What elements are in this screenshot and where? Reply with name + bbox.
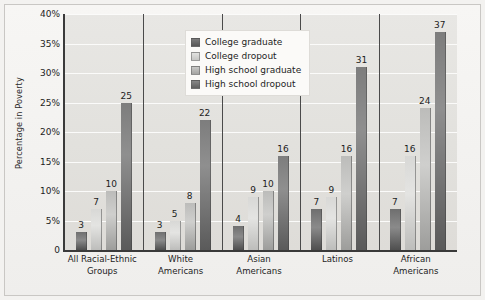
bar-value-label: 24 bbox=[419, 97, 430, 106]
chart-legend: College graduateCollege dropoutHigh scho… bbox=[185, 30, 310, 96]
bar-slot: 3 bbox=[76, 14, 87, 250]
bar[interactable]: 4 bbox=[233, 226, 244, 250]
legend-item[interactable]: College graduate bbox=[191, 35, 301, 49]
bar[interactable]: 16 bbox=[405, 156, 416, 250]
bar[interactable]: 8 bbox=[185, 203, 196, 250]
y-axis-tick: 30% bbox=[22, 68, 60, 78]
bar[interactable]: 25 bbox=[121, 103, 132, 251]
bar[interactable]: 37 bbox=[435, 32, 446, 250]
y-axis-tick: 5% bbox=[22, 216, 60, 226]
legend-label: High school graduate bbox=[205, 65, 301, 75]
y-axis-tick: 35% bbox=[22, 39, 60, 49]
x-axis-label-line: Americans bbox=[379, 266, 453, 278]
bar-value-label: 16 bbox=[341, 145, 352, 154]
bar-slot: 7 bbox=[311, 14, 322, 250]
bar[interactable]: 31 bbox=[356, 67, 367, 250]
legend-item[interactable]: High school graduate bbox=[191, 63, 301, 77]
y-axis-tick-labels: 40%35%30%25%20%15%10%5%0 bbox=[22, 14, 60, 250]
legend-swatch-icon bbox=[191, 80, 200, 89]
bar-value-label: 9 bbox=[329, 186, 335, 195]
bar-slot: 24 bbox=[420, 14, 431, 250]
bar-value-label: 5 bbox=[172, 210, 178, 219]
bar[interactable]: 16 bbox=[278, 156, 289, 250]
x-axis-label-line: Latinos bbox=[300, 254, 374, 266]
bar-group-bars: 791631 bbox=[300, 14, 378, 250]
bar-value-label: 10 bbox=[262, 180, 273, 189]
y-axis-tick: 10% bbox=[22, 186, 60, 196]
bar-slot: 37 bbox=[435, 14, 446, 250]
legend-item[interactable]: College dropout bbox=[191, 49, 301, 63]
y-axis-tick: 25% bbox=[22, 98, 60, 108]
bar-chart-figure: Percentage in Poverty 40%35%30%25%20%15%… bbox=[0, 0, 485, 300]
x-axis-label-line: Asian bbox=[222, 254, 296, 266]
legend-swatch-icon bbox=[191, 38, 200, 47]
bar-slot: 7 bbox=[91, 14, 102, 250]
x-axis-category-labels: All Racial-EthnicGroupsWhiteAmericansAsi… bbox=[63, 254, 455, 277]
bar-slot: 31 bbox=[356, 14, 367, 250]
bar-group: 791631 bbox=[300, 14, 378, 250]
bar-value-label: 4 bbox=[235, 215, 241, 224]
bar-slot: 3 bbox=[155, 14, 166, 250]
bar-value-label: 7 bbox=[392, 198, 398, 207]
bar-group-bars: 7162437 bbox=[379, 14, 457, 250]
bar[interactable]: 3 bbox=[155, 232, 166, 250]
y-axis-tick: 15% bbox=[22, 157, 60, 167]
x-axis-label: AsianAmericans bbox=[220, 254, 298, 277]
x-axis-label: All Racial-EthnicGroups bbox=[63, 254, 141, 277]
legend-label: College graduate bbox=[205, 37, 282, 47]
bar-value-label: 16 bbox=[404, 145, 415, 154]
bar[interactable]: 10 bbox=[263, 191, 274, 250]
bar[interactable]: 7 bbox=[311, 209, 322, 250]
bar-value-label: 31 bbox=[356, 56, 367, 65]
legend-swatch-icon bbox=[191, 66, 200, 75]
bar-value-label: 25 bbox=[120, 92, 131, 101]
bar-value-label: 37 bbox=[434, 21, 445, 30]
bar[interactable]: 9 bbox=[248, 197, 259, 250]
bar-value-label: 3 bbox=[157, 221, 163, 230]
y-axis-tick: 40% bbox=[22, 9, 60, 19]
x-axis-label-line: African bbox=[379, 254, 453, 266]
bar-slot: 16 bbox=[341, 14, 352, 250]
bar[interactable]: 7 bbox=[91, 209, 102, 250]
bar-value-label: 8 bbox=[187, 192, 193, 201]
x-axis-label: Latinos bbox=[298, 254, 376, 277]
legend-label: College dropout bbox=[205, 51, 277, 61]
bar-group-bars: 371025 bbox=[65, 14, 143, 250]
bar-value-label: 3 bbox=[78, 221, 84, 230]
bar-slot: 9 bbox=[326, 14, 337, 250]
bar-value-label: 16 bbox=[277, 145, 288, 154]
bar-slot: 16 bbox=[405, 14, 416, 250]
bar[interactable]: 3 bbox=[76, 232, 87, 250]
x-axis-label-line: All Racial-Ethnic bbox=[65, 254, 139, 266]
bar[interactable]: 10 bbox=[106, 191, 117, 250]
x-axis-label-line: Americans bbox=[222, 266, 296, 278]
y-axis-tick: 0 bbox=[22, 245, 60, 255]
bar-value-label: 7 bbox=[314, 198, 320, 207]
bar-group: 7162437 bbox=[379, 14, 457, 250]
legend-swatch-icon bbox=[191, 52, 200, 61]
legend-label: High school dropout bbox=[205, 79, 295, 89]
bar[interactable]: 9 bbox=[326, 197, 337, 250]
y-axis-tick: 20% bbox=[22, 127, 60, 137]
bar-value-label: 22 bbox=[199, 109, 210, 118]
x-axis-label-line: White bbox=[143, 254, 217, 266]
legend-item[interactable]: High school dropout bbox=[191, 77, 301, 91]
x-axis-label: AfricanAmericans bbox=[377, 254, 455, 277]
x-axis-label-line: Americans bbox=[143, 266, 217, 278]
bar-group: 371025 bbox=[65, 14, 143, 250]
bar[interactable]: 7 bbox=[390, 209, 401, 250]
bar[interactable]: 5 bbox=[170, 221, 181, 251]
bar-slot: 7 bbox=[390, 14, 401, 250]
bar[interactable]: 22 bbox=[200, 120, 211, 250]
bar-slot: 5 bbox=[170, 14, 181, 250]
bar-value-label: 10 bbox=[105, 180, 116, 189]
bar-value-label: 9 bbox=[250, 186, 256, 195]
bar-slot: 25 bbox=[121, 14, 132, 250]
bar[interactable]: 24 bbox=[420, 108, 431, 250]
x-axis-label-line: Groups bbox=[65, 266, 139, 278]
bar-slot: 10 bbox=[106, 14, 117, 250]
bar[interactable]: 16 bbox=[341, 156, 352, 250]
bar-value-label: 7 bbox=[93, 198, 99, 207]
x-axis-label: WhiteAmericans bbox=[141, 254, 219, 277]
